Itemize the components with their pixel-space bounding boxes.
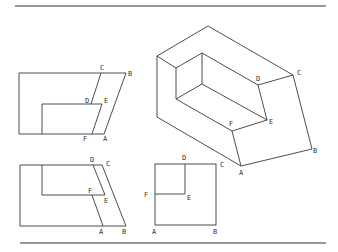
top-view-label-d: D	[182, 154, 186, 162]
diagram-canvas: CBDEFADCFEABDCFEABDCFEAB	[0, 0, 338, 252]
side-view-label-d: D	[90, 156, 94, 164]
isometric-view-label-e: E	[269, 118, 273, 126]
top-view-label-c: C	[220, 161, 224, 169]
side-view	[20, 165, 126, 226]
vertex-labels: CBDEFADCFEABDCFEABDCFEAB	[83, 64, 317, 236]
top-view-label-a: A	[152, 228, 157, 236]
side-view-label-a: A	[99, 228, 104, 236]
front-view-label-e: E	[104, 97, 108, 105]
side-view-label-e: E	[104, 197, 108, 205]
top-view	[155, 164, 216, 225]
side-view-label-f: F	[88, 187, 92, 195]
isometric-view-label-d: D	[256, 75, 260, 83]
front-view-label-b: B	[128, 70, 132, 78]
front-view-label-c: C	[100, 64, 104, 72]
side-view-label-c: C	[106, 160, 110, 168]
isometric-view-label-a: A	[239, 169, 244, 177]
isometric-view-label-f: F	[229, 120, 233, 128]
side-view-label-b: B	[122, 228, 126, 236]
front-view	[19, 73, 126, 134]
top-view-label-b: B	[213, 228, 217, 236]
front-view-label-f: F	[83, 135, 87, 143]
top-view-label-e: E	[187, 194, 191, 202]
isometric-view-label-b: B	[313, 147, 317, 155]
isometric-view-label-c: C	[297, 69, 301, 77]
front-view-label-d: D	[85, 97, 89, 105]
isometric-view	[157, 26, 312, 166]
top-view-label-f: F	[144, 191, 148, 199]
front-view-label-a: A	[103, 135, 108, 143]
